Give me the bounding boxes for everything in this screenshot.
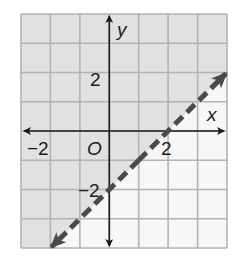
origin-label: O bbox=[87, 138, 102, 159]
inequality-graph: y x O −2 2 2 −2 bbox=[0, 0, 238, 258]
y-tick-neg2: −2 bbox=[78, 180, 100, 201]
x-tick-pos2: 2 bbox=[161, 138, 172, 159]
y-tick-pos2: 2 bbox=[90, 69, 101, 90]
x-axis-label: x bbox=[206, 104, 218, 125]
x-tick-neg2: −2 bbox=[27, 138, 49, 159]
y-axis-label: y bbox=[115, 19, 128, 40]
